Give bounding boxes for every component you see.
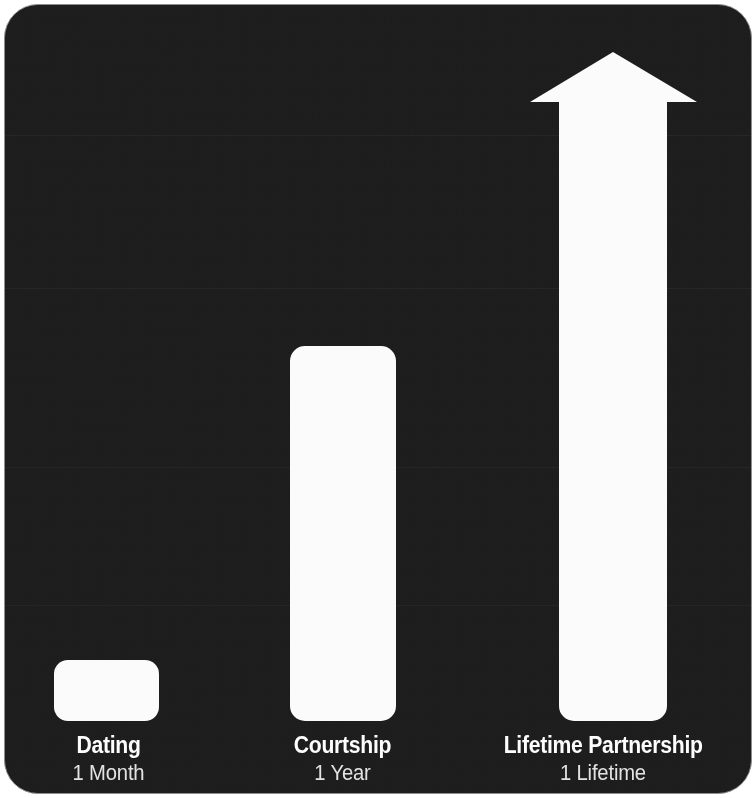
category-title: Lifetime Partnership: [504, 733, 703, 758]
category-title: Courtship: [247, 733, 437, 758]
up-arrow-icon: [525, 45, 705, 735]
category-label-courtship: Courtship 1 Year: [239, 733, 446, 785]
chart-panel: Dating 1 Month Courtship 1 Year Lifetime…: [4, 4, 752, 794]
category-label-dating: Dating 1 Month: [5, 733, 212, 785]
category-subtitle: 1 Month: [13, 761, 203, 785]
bar-courtship: [290, 346, 396, 721]
poster-root: Dating 1 Month Courtship 1 Year Lifetime…: [0, 0, 756, 798]
category-subtitle: 1 Year: [247, 761, 437, 785]
bar-chart: Dating 1 Month Courtship 1 Year Lifetime…: [5, 5, 751, 793]
bar-dating: [54, 660, 159, 721]
bar-lifetime-partnership-arrow: [525, 45, 705, 735]
category-title: Dating: [13, 733, 203, 758]
category-label-lifetime-partnership: Lifetime Partnership 1 Lifetime: [495, 733, 711, 785]
category-subtitle: 1 Lifetime: [504, 761, 703, 785]
